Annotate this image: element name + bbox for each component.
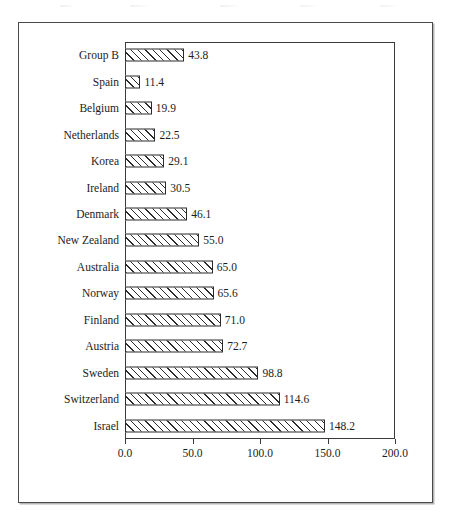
bar-row: Sweden98.8 [19,360,434,386]
bar [125,260,213,273]
x-axis-tick [328,439,329,444]
bar [125,102,152,115]
bar-value-label: 19.9 [156,102,176,115]
x-axis-tick [260,439,261,444]
bar-value-label: 65.6 [218,287,238,300]
bar [125,234,199,247]
bar-with-value: 55.0 [125,234,223,247]
category-label: New Zealand [19,234,119,247]
bar-value-label: 46.1 [191,208,211,221]
bar-with-value: 72.7 [125,340,247,353]
bar-with-value: 11.4 [125,75,164,88]
bar-value-label: 98.8 [262,366,282,379]
bar-row: Group B43.8 [19,42,434,68]
bar-value-label: 72.7 [227,340,247,353]
bar-row: Switzerland114.6 [19,386,434,412]
bar-value-label: 22.5 [159,128,179,141]
bar-value-label: 30.5 [170,181,190,194]
bar-with-value: 114.6 [125,393,309,406]
bar-row: Ireland30.5 [19,174,434,200]
category-label: Australia [19,260,119,273]
category-label: Group B [19,49,119,62]
bar [125,287,214,300]
bar-value-label: 55.0 [203,234,223,247]
bar-with-value: 22.5 [125,128,180,141]
category-label: Spain [19,75,119,88]
bar [125,49,184,62]
x-axis-tick [193,439,194,444]
bar-row: New Zealand55.0 [19,227,434,253]
x-axis-tick-label: 100.0 [247,447,273,459]
bar [125,181,166,194]
scan-artifact [0,0,449,14]
bar-with-value: 30.5 [125,181,190,194]
category-label: Belgium [19,102,119,115]
bar-with-value: 65.0 [125,260,237,273]
category-label: Norway [19,287,119,300]
bar-value-label: 114.6 [284,393,309,406]
category-label: Netherlands [19,128,119,141]
bar-with-value: 148.2 [125,419,355,432]
bar [125,419,325,432]
x-axis-tick-label: 50.0 [182,447,202,459]
bar-with-value: 71.0 [125,313,245,326]
bar-with-value: 65.6 [125,287,238,300]
x-axis-tick [395,439,396,444]
category-label: Sweden [19,366,119,379]
bar [125,75,140,88]
chart-outer-frame: Group B43.8Spain11.4Belgium19.9Netherlan… [18,22,433,503]
x-axis-tick-label: 150.0 [315,447,341,459]
bar-value-label: 148.2 [329,419,355,432]
bar-value-label: 65.0 [217,260,237,273]
bar-with-value: 29.1 [125,155,188,168]
bar-row: Norway65.6 [19,280,434,306]
bar-value-label: 43.8 [188,49,208,62]
category-label: Korea [19,155,119,168]
bar-chart: Group B43.8Spain11.4Belgium19.9Netherlan… [19,23,434,504]
bar-value-label: 71.0 [225,313,245,326]
bar [125,313,221,326]
x-axis-tick-label: 200.0 [382,447,408,459]
bar [125,393,280,406]
bar-row: Israel148.2 [19,413,434,439]
bar-row: Australia65.0 [19,254,434,280]
bar-with-value: 46.1 [125,208,211,221]
bar-row: Finland71.0 [19,307,434,333]
category-label: Switzerland [19,393,119,406]
bar-value-label: 11.4 [144,75,164,88]
bar [125,128,155,141]
category-label: Finland [19,313,119,326]
category-label: Denmark [19,208,119,221]
bar-row: Austria72.7 [19,333,434,359]
bar-row: Spain11.4 [19,68,434,94]
bar-row: Netherlands22.5 [19,121,434,147]
x-axis-tick [125,439,126,444]
bar-row: Korea29.1 [19,148,434,174]
bar [125,340,223,353]
category-label: Ireland [19,181,119,194]
bar-with-value: 43.8 [125,49,208,62]
category-label: Israel [19,419,119,432]
bar-with-value: 98.8 [125,366,283,379]
bar-with-value: 19.9 [125,102,176,115]
bar [125,366,258,379]
x-axis-tick-label: 0.0 [118,447,132,459]
bar [125,155,164,168]
bar-row: Belgium19.9 [19,95,434,121]
category-label: Austria [19,340,119,353]
bar [125,208,187,221]
bar-value-label: 29.1 [168,155,188,168]
bar-row: Denmark46.1 [19,201,434,227]
